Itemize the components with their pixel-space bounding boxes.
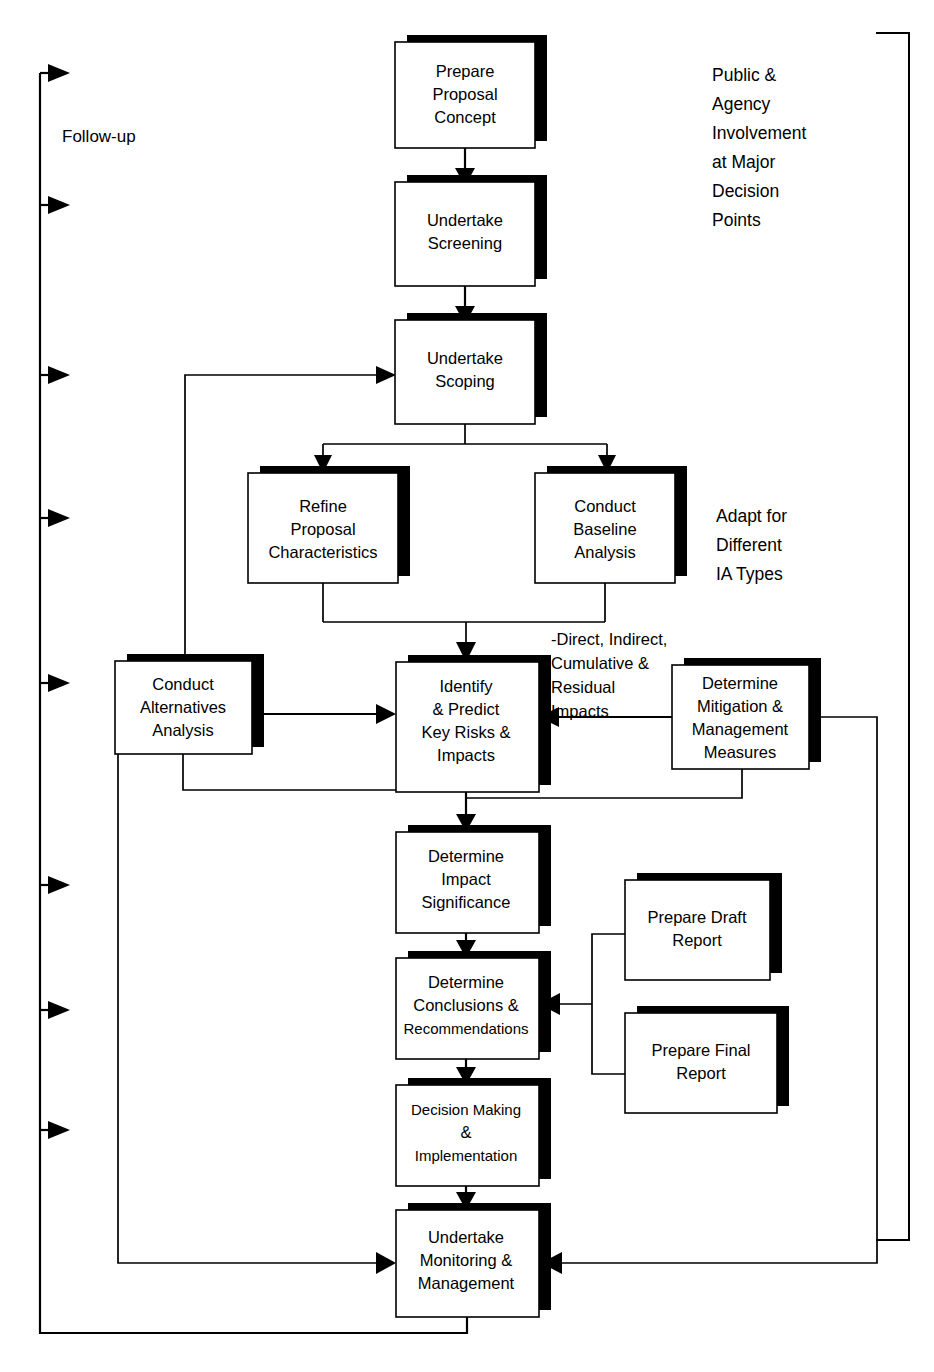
edge-refine-baseline-merge: [323, 583, 605, 662]
public-agency-label-line: Involvement: [712, 123, 806, 143]
public-agency-label-line: at Major: [712, 152, 775, 172]
followup-arrow-5: [40, 674, 70, 692]
node-label: Alternatives: [140, 698, 226, 716]
node-label: &: [460, 1123, 471, 1141]
node-label: Refine: [299, 497, 347, 515]
adapt-label-line: Different: [716, 535, 782, 555]
node-label: Proposal: [432, 85, 497, 103]
flowchart-svg: Prepare Proposal Concept Undertake Scree…: [0, 0, 934, 1372]
node-label: Undertake: [428, 1228, 504, 1246]
node-label: Decision Making: [411, 1101, 521, 1118]
node-label: Prepare: [436, 62, 495, 80]
node-label: Mitigation &: [697, 697, 783, 715]
node-label: Impacts: [437, 746, 495, 764]
node-label: Report: [672, 931, 722, 949]
node-label: & Predict: [433, 700, 500, 718]
node-label: Management: [418, 1274, 515, 1292]
node-label: Proposal: [290, 520, 355, 538]
annotation-follow-up: Follow-up: [62, 127, 136, 146]
impact-types-label-line: -Direct, Indirect,: [551, 630, 667, 648]
node-label: Prepare Final: [651, 1041, 750, 1059]
node-label: Significance: [422, 893, 511, 911]
adapt-label-line: IA Types: [716, 564, 783, 584]
followup-arrow-8: [40, 1121, 70, 1139]
followup-arrow-3: [40, 366, 70, 384]
annotation-impact-types: -Direct, Indirect, Cumulative & Residual…: [551, 630, 667, 720]
impact-types-label-line: Residual: [551, 678, 615, 696]
node-label: Prepare Draft: [647, 908, 746, 926]
node-label: Determine: [428, 973, 504, 991]
node-undertake-scoping[interactable]: Undertake Scoping: [395, 313, 547, 424]
node-label: Analysis: [152, 721, 213, 739]
edge-scoping-split: [314, 424, 616, 473]
node-prepare-proposal-concept[interactable]: Prepare Proposal Concept: [395, 35, 547, 148]
followup-arrow-6: [40, 876, 70, 894]
public-agency-label-line: Decision: [712, 181, 779, 201]
node-label: Key Risks &: [422, 723, 511, 741]
annotation-public-agency-involvement: Public & Agency Involvement at Major Dec…: [712, 65, 806, 230]
follow-up-label: Follow-up: [62, 127, 136, 146]
public-agency-label-line: Public &: [712, 65, 777, 85]
node-determine-impact-significance[interactable]: Determine Impact Significance: [396, 825, 551, 933]
node-label: Baseline: [573, 520, 636, 538]
public-agency-label-line: Points: [712, 210, 761, 230]
node-label: Measures: [704, 743, 776, 761]
impact-types-label-line: Cumulative &: [551, 654, 649, 672]
edge-reports-to-conclusions: [539, 934, 625, 1074]
annotation-adapt-for-different-ia-types: Adapt for Different IA Types: [716, 506, 787, 584]
node-conduct-alternatives-analysis[interactable]: Conduct Alternatives Analysis: [115, 654, 264, 754]
node-decision-making-implementation[interactable]: Decision Making & Implementation: [396, 1078, 551, 1186]
edge-alternatives-loop-to-monitoring: [118, 714, 396, 1274]
impact-types-label-line: Impacts: [551, 702, 609, 720]
edge-alternatives-to-identify: [252, 704, 396, 724]
node-prepare-final-report[interactable]: Prepare Final Report: [625, 1006, 789, 1113]
node-identify-predict-key-risks-impacts[interactable]: Identify & Predict Key Risks & Impacts: [396, 655, 551, 792]
node-label: Screening: [428, 234, 502, 252]
node-label: Characteristics: [268, 543, 377, 561]
node-undertake-screening[interactable]: Undertake Screening: [395, 175, 547, 286]
node-label: Conduct: [152, 675, 214, 693]
followup-arrow-2: [40, 196, 70, 214]
followup-arrow-1: [40, 64, 70, 82]
node-label: Determine: [428, 847, 504, 865]
node-label: Scoping: [435, 372, 495, 390]
followup-arrow-7: [40, 1001, 70, 1019]
node-label: Conduct: [574, 497, 636, 515]
node-label: Undertake: [427, 211, 503, 229]
node-label: Identify: [439, 677, 493, 695]
node-label: Undertake: [427, 349, 503, 367]
public-agency-label-line: Agency: [712, 94, 771, 114]
public-agency-bracket: [876, 33, 909, 1240]
node-determine-conclusions-recommendations[interactable]: Determine Conclusions & Recommendations: [396, 951, 551, 1059]
diagram-canvas: Prepare Proposal Concept Undertake Scree…: [0, 0, 934, 1372]
adapt-label-line: Adapt for: [716, 506, 787, 526]
node-prepare-draft-report[interactable]: Prepare Draft Report: [625, 873, 782, 980]
node-label: Implementation: [415, 1147, 518, 1164]
node-label: Conclusions &: [413, 996, 518, 1014]
node-label: Management: [692, 720, 789, 738]
node-determine-mitigation-management-measures[interactable]: Determine Mitigation & Management Measur…: [672, 658, 821, 769]
node-label: Impact: [441, 870, 491, 888]
node-refine-proposal-characteristics[interactable]: Refine Proposal Characteristics: [248, 466, 410, 583]
node-label: Analysis: [574, 543, 635, 561]
node-label: Monitoring &: [420, 1251, 513, 1269]
node-conduct-baseline-analysis[interactable]: Conduct Baseline Analysis: [535, 466, 687, 583]
node-label: Report: [676, 1064, 726, 1082]
node-label: Determine: [702, 674, 778, 692]
node-undertake-monitoring-management[interactable]: Undertake Monitoring & Management: [396, 1203, 551, 1317]
node-label: Recommendations: [403, 1020, 528, 1037]
node-label: Concept: [434, 108, 496, 126]
followup-arrow-4: [40, 509, 70, 527]
